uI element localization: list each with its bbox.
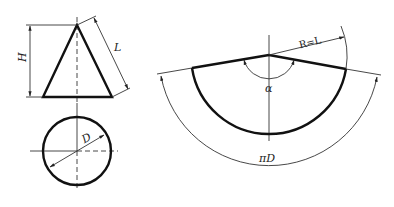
slant-dimension-line: [94, 18, 128, 89]
radius-label: R=L: [298, 34, 323, 50]
cone-outline: [43, 25, 112, 97]
diameter-label: D: [79, 130, 94, 146]
cone-front-view: H L: [16, 16, 130, 104]
cone-development-sector: α R=L πD: [157, 26, 381, 166]
slant-extension-top: [77, 16, 96, 25]
slant-label: L: [113, 41, 121, 54]
arc-length-label: πD: [258, 152, 275, 165]
slant-extension-bottom: [112, 88, 130, 97]
sector-left-edge: [192, 55, 269, 68]
height-label: H: [16, 52, 29, 63]
left-edge-extension: [157, 68, 192, 74]
angle-label: α: [265, 82, 273, 95]
radius-reference-arc: [341, 26, 347, 69]
right-edge-extension: [346, 69, 381, 75]
sector-right-edge: [269, 55, 346, 69]
cone-development-diagram: H L D α R=L πD: [0, 0, 394, 207]
cone-top-view: D: [30, 103, 118, 191]
